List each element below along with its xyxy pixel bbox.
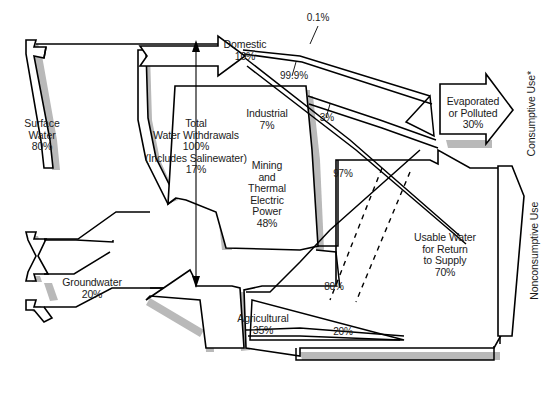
split-label-domestic-consumptive: 0.1% [294, 12, 342, 23]
split-label-agricultural-consumptive: 80% [313, 281, 355, 292]
water-use-flow-diagram: Surface Water 80% Groundwater 20% Total … [0, 0, 547, 400]
split-label-industrial-consumptive: 3% [306, 112, 348, 123]
split-label-agricultural-return: 20% [322, 326, 364, 337]
category-label-nonconsumptive-use: Nonconsumptive Use [529, 156, 541, 346]
output-label-evaporated: Evaporated or Polluted 30% [435, 96, 511, 131]
sector-label-agricultural: Agricultural 35% [215, 313, 311, 336]
sector-label-mining-thermal: Mining and Thermal Electric Power 48% [224, 160, 310, 229]
split-label-domestic-return: 99.9% [266, 70, 322, 81]
sector-label-industrial: Industrial 7% [224, 108, 310, 131]
output-label-usable-water: Usable Water for Return to Supply 70% [390, 232, 500, 278]
nonconsumptive-arrow-head [498, 166, 524, 336]
sector-label-domestic: Domestic 10% [211, 39, 279, 62]
split-label-industrial-return: 97% [322, 168, 364, 179]
source-label-groundwater: Groundwater 20% [46, 277, 138, 300]
source-label-surface-water: Surface Water 80% [4, 118, 80, 153]
